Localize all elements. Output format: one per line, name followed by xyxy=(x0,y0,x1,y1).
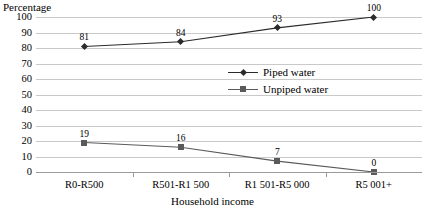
data-point-label: 100 xyxy=(367,3,381,13)
legend-label: Piped water xyxy=(258,66,315,79)
data-point-label: 81 xyxy=(80,32,90,42)
square-marker-icon xyxy=(228,83,258,95)
y-tick-label: 50 xyxy=(2,90,32,100)
x-axis-tick xyxy=(229,172,230,177)
diamond-marker-icon xyxy=(228,66,258,78)
y-tick-label: 60 xyxy=(2,74,32,84)
x-tick-label: R501-R1 500 xyxy=(152,178,209,192)
x-axis-tick-labels: R0-R500R501-R1 500R1 501-R5 000R5 001+ xyxy=(36,178,422,194)
x-tick-label: R1 501-R5 000 xyxy=(245,178,310,192)
y-tick-label: 90 xyxy=(2,28,32,38)
data-point-label: 19 xyxy=(80,129,90,139)
y-tick-label: 80 xyxy=(2,43,32,53)
chart-legend: Piped waterUnpiped water xyxy=(228,64,360,100)
series-line-1 xyxy=(84,143,374,172)
series-line-0 xyxy=(84,17,374,46)
x-axis-tick xyxy=(326,172,327,177)
y-axis-tick-labels: 1009080706050403020100 xyxy=(0,17,32,172)
y-tick-label: 20 xyxy=(2,136,32,146)
y-tick-label: 30 xyxy=(2,121,32,131)
data-point-marker xyxy=(81,140,87,146)
data-point-label: 84 xyxy=(176,28,186,38)
data-point-label: 0 xyxy=(371,158,376,168)
data-point-marker xyxy=(274,158,280,164)
data-point-label: 7 xyxy=(275,147,280,157)
y-tick-label: 40 xyxy=(2,105,32,115)
x-tick-label: R5 001+ xyxy=(355,178,392,192)
y-tick-label: 100 xyxy=(2,12,32,22)
chart-figure: Percentage 1009080706050403020100 818493… xyxy=(0,0,425,214)
legend-item[interactable]: Unpiped water xyxy=(228,81,328,97)
y-tick-label: 70 xyxy=(2,59,32,69)
x-axis-title: Household income xyxy=(0,194,425,208)
y-tick-label: 10 xyxy=(2,152,32,162)
y-tick-label: 0 xyxy=(2,167,32,177)
legend-label: Unpiped water xyxy=(258,83,328,96)
data-point-marker xyxy=(178,144,184,150)
data-point-label: 93 xyxy=(273,14,283,24)
legend-item[interactable]: Piped water xyxy=(228,64,315,80)
data-point-label: 16 xyxy=(176,133,186,143)
x-axis-tick xyxy=(133,172,134,177)
x-tick-label: R0-R500 xyxy=(65,178,104,192)
